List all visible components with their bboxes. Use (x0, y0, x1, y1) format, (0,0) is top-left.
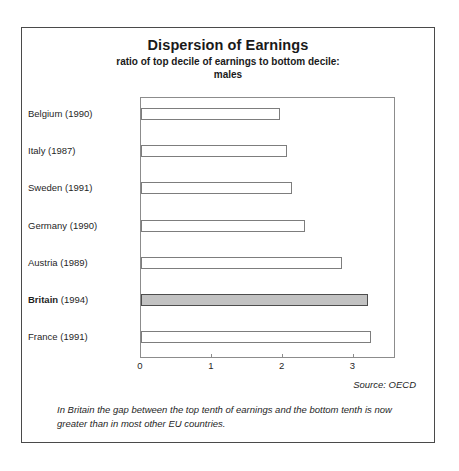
x-tick-mark (211, 354, 212, 358)
bar-britain[interactable] (141, 294, 368, 306)
category-label-year: (1987) (45, 145, 75, 156)
chart-subtitle-line2: males (22, 69, 434, 82)
x-tick-label-3: 3 (350, 360, 355, 371)
bar-sweden[interactable] (141, 182, 292, 194)
x-tick-label-2: 2 (279, 360, 284, 371)
plot-area (140, 97, 395, 358)
category-label-year: (1990) (67, 220, 97, 231)
category-label-name: Britain (28, 294, 58, 305)
bar-belgium[interactable] (141, 108, 280, 120)
category-label-germany: Germany (1990) (28, 220, 140, 231)
title-block: Dispersion of Earnings ratio of top deci… (22, 37, 434, 81)
category-label-belgium: Belgium (1990) (28, 108, 140, 119)
page-title: Dispersion of Earnings (22, 37, 434, 54)
source-note: Source: OECD (353, 379, 416, 390)
x-axis: 0123 (140, 358, 395, 374)
category-label-name: Germany (28, 220, 67, 231)
category-label-name: Austria (28, 257, 58, 268)
category-label-year: (1990) (62, 108, 92, 119)
bar-france[interactable] (141, 331, 371, 343)
category-label-britain: Britain (1994) (28, 294, 140, 305)
category-label-name: Belgium (28, 108, 62, 119)
category-label-name: France (28, 331, 58, 342)
x-tick-mark (353, 354, 354, 358)
chart-subtitle-line1: ratio of top decile of earnings to botto… (22, 56, 434, 69)
category-label-name: Sweden (28, 182, 62, 193)
chart-figure: Dispersion of Earnings ratio of top deci… (21, 27, 435, 443)
bar-austria[interactable] (141, 257, 342, 269)
bar-italy[interactable] (141, 145, 287, 157)
chart-subtitle: ratio of top decile of earnings to botto… (22, 56, 434, 81)
category-label-sweden: Sweden (1991) (28, 182, 140, 193)
category-label-year: (1991) (58, 331, 88, 342)
x-tick-mark (140, 354, 141, 358)
bar-germany[interactable] (141, 220, 305, 232)
x-tick-label-1: 1 (208, 360, 213, 371)
category-axis-labels: Belgium (1990)Italy (1987)Sweden (1991)G… (28, 97, 140, 358)
chart-caption: In Britain the gap between the top tenth… (57, 403, 412, 431)
category-label-name: Italy (28, 145, 45, 156)
category-label-year: (1994) (58, 294, 88, 305)
category-label-year: (1989) (58, 257, 88, 268)
x-tick-label-0: 0 (137, 360, 142, 371)
category-label-france: France (1991) (28, 331, 140, 342)
category-label-italy: Italy (1987) (28, 145, 140, 156)
category-label-year: (1991) (62, 182, 92, 193)
x-tick-mark (282, 354, 283, 358)
category-label-austria: Austria (1989) (28, 257, 140, 268)
